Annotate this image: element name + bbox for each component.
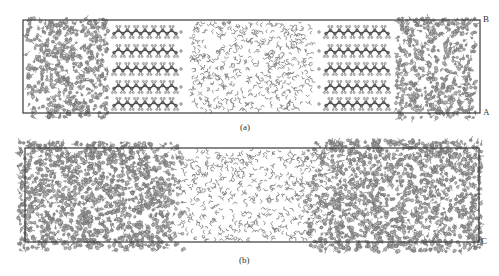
hydrocarbon-chain xyxy=(111,25,182,38)
hydrocarbon-chain xyxy=(111,62,182,75)
hydrocarbon-chain-right-group xyxy=(318,25,391,110)
counter-ion xyxy=(318,31,321,34)
hydrocarbon-chain xyxy=(318,80,391,93)
simulation-canvas xyxy=(0,0,499,276)
hydrocarbon-chain xyxy=(111,97,182,110)
right-aggregate-molecules xyxy=(394,14,480,122)
counter-ion xyxy=(180,86,183,89)
counter-ion xyxy=(180,31,183,34)
corner-label-b: B xyxy=(483,14,489,24)
hydrocarbon-chain xyxy=(318,44,391,57)
left-adsorbed-layer-molecules xyxy=(15,138,187,252)
hydrocarbon-chain xyxy=(318,62,391,75)
hydrocarbon-chain xyxy=(111,44,182,57)
panel-b-caption: (b) xyxy=(239,255,250,265)
counter-ion xyxy=(180,68,183,71)
counter-ion xyxy=(318,68,321,71)
simulation-figure: (a) (b) B A C xyxy=(0,0,499,276)
hydrocarbon-chain xyxy=(318,97,391,110)
panel-a-simulation-box xyxy=(22,14,480,122)
hydrocarbon-chain-left-group xyxy=(111,25,182,110)
corner-label-a: A xyxy=(483,107,490,117)
hydrocarbon-chain xyxy=(111,80,182,93)
panel-a-caption: (a) xyxy=(240,122,250,132)
left-aggregate-molecules xyxy=(22,15,110,119)
counter-ion xyxy=(180,103,183,106)
counter-ion xyxy=(318,103,321,106)
hydrocarbon-chain xyxy=(318,25,391,38)
counter-ion xyxy=(318,86,321,89)
counter-ion xyxy=(318,50,321,53)
water-molecules xyxy=(189,21,315,114)
panel-b-simulation-box xyxy=(15,136,485,255)
corner-label-c: C xyxy=(481,236,487,246)
counter-ion xyxy=(180,50,183,53)
right-adsorbed-layer-molecules xyxy=(304,136,484,255)
